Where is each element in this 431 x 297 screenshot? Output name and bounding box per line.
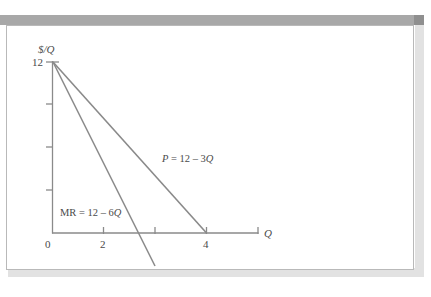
- right-drop-shadow: [415, 25, 424, 277]
- corner-shadow-block: [414, 15, 424, 25]
- chart-card: [6, 25, 414, 270]
- figure-root: $/Q Q 12 0 2 4 P = 12 – 3Q MR = 12 – 6Q: [0, 0, 431, 297]
- top-decorative-band: [0, 15, 414, 25]
